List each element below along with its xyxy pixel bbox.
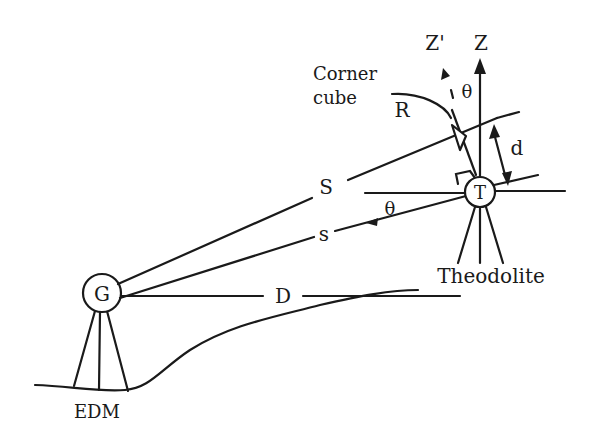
z-axis-arrow-icon	[474, 58, 486, 74]
label-s-upper: S	[319, 175, 333, 199]
label-g: G	[94, 282, 110, 306]
label-edm: EDM	[74, 401, 120, 422]
label-r: R	[394, 98, 410, 122]
theodolite-tripod	[458, 207, 503, 263]
cube-plane-extension	[497, 112, 519, 118]
survey-diagram: G D S s θ Z Z' θ R Corner cube d	[0, 0, 590, 443]
label-corner-cube-line1: Corner	[313, 63, 377, 84]
z-prime-axis-arrow-icon	[441, 68, 450, 80]
offset-d-dimension-line	[495, 137, 505, 175]
label-theodolite: Theodolite	[437, 264, 545, 288]
label-s-lower: s	[319, 222, 329, 246]
label-d-horizontal: D	[275, 284, 291, 308]
label-t: T	[474, 182, 486, 203]
offset-reference-line	[494, 175, 538, 185]
slope-distance-line-upper-left	[118, 198, 312, 284]
edm-tripod	[74, 311, 128, 391]
label-d: d	[511, 136, 524, 160]
slope-distance-line-lower-right	[335, 196, 466, 231]
label-z: Z	[474, 31, 488, 55]
offset-d-arrow-up-icon	[489, 124, 500, 139]
label-corner-cube-line2: cube	[313, 87, 357, 108]
label-theta-top: θ	[462, 81, 473, 102]
z-prime-axis-dash	[451, 90, 453, 98]
label-z-prime: Z'	[425, 31, 444, 55]
label-theta-mid: θ	[385, 198, 396, 219]
